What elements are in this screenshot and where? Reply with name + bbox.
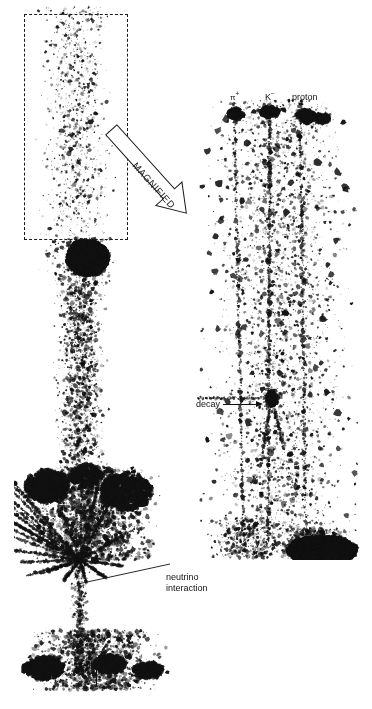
decay-callout: decay: [196, 399, 263, 409]
label-proton: proton: [292, 92, 318, 102]
label-pion: π+: [230, 93, 239, 102]
neutrino-beam-callout: neutrino: [55, 660, 129, 670]
neutrino-interaction-callout: neutrino interaction: [166, 572, 208, 595]
emulsion-figure: MAGNIFIED π+ K− proton decay neutrino in…: [0, 0, 372, 709]
left-emulsion-strip: [14, 0, 178, 700]
magnified-arrow: MAGNIFIED: [112, 128, 224, 244]
label-kaon: K−: [265, 92, 275, 102]
interaction-label-line1: neutrino: [166, 572, 208, 583]
label-pion-charge: +: [236, 90, 240, 97]
decay-label: decay: [196, 399, 220, 409]
left-emulsion-grains: [14, 0, 178, 700]
label-proton-text: proton: [292, 92, 318, 102]
decay-arrow-icon: [223, 401, 263, 408]
label-kaon-charge: −: [271, 90, 275, 97]
interaction-label-line2: interaction: [166, 583, 208, 594]
